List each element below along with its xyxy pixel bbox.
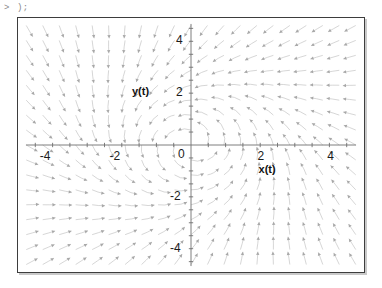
- field-arrow-head: [123, 139, 126, 143]
- direction-field-plot: [18, 18, 364, 272]
- field-arrow-head: [242, 147, 245, 150]
- field-arrow-head: [65, 150, 69, 153]
- field-arrow-head: [302, 237, 305, 241]
- field-arrow-head: [229, 195, 232, 199]
- field-arrow-head: [153, 34, 156, 38]
- field-arrow-head: [296, 122, 300, 125]
- field-arrow-head: [36, 189, 39, 192]
- field-arrow-head: [82, 165, 86, 168]
- field-arrow-head: [166, 228, 170, 231]
- command-prompt-line[interactable]: > );: [4, 1, 29, 14]
- field-arrow-head: [107, 124, 110, 128]
- field-arrow-head: [36, 203, 39, 206]
- field-arrow-head: [166, 179, 169, 182]
- field-arrow-head: [310, 70, 313, 73]
- field-arrow-head: [315, 164, 318, 168]
- field-arrow-head: [211, 96, 214, 99]
- field-arrow-head: [92, 65, 95, 68]
- plot-output-frame[interactable]: -4-202442-2-4y(t)x(t): [17, 17, 365, 273]
- field-arrow-head: [214, 151, 217, 155]
- field-arrow-head: [327, 110, 331, 113]
- field-arrow-head: [331, 180, 334, 184]
- field-arrow-head: [92, 109, 95, 113]
- field-arrow-head: [106, 110, 109, 113]
- field-arrow-head: [85, 204, 88, 207]
- field-arrow-head: [310, 96, 313, 99]
- field-arrow-head: [167, 62, 170, 66]
- field-arrow-head: [268, 133, 271, 137]
- field-arrow-head: [183, 47, 186, 51]
- field-arrow-head: [136, 79, 139, 83]
- field-arrow-head: [287, 192, 290, 195]
- field-arrow-head: [348, 209, 351, 213]
- field-arrow-head: [92, 35, 95, 38]
- field-arrow-head: [310, 83, 313, 86]
- field-arrow-head: [47, 92, 50, 96]
- field-arrow-head: [195, 97, 199, 100]
- field-arrow-head: [213, 108, 216, 111]
- field-arrow-head: [132, 243, 136, 246]
- field-arrow-head: [228, 148, 231, 151]
- field-arrow-head: [287, 177, 290, 181]
- field-arrow-head: [107, 35, 110, 38]
- field-arrow-head: [277, 70, 280, 73]
- field-arrow-head: [197, 121, 200, 124]
- field-arrow-head: [138, 35, 141, 38]
- field-arrow-head: [137, 49, 140, 52]
- field-arrow-head: [52, 203, 55, 206]
- field-arrow-head: [85, 191, 88, 194]
- prompt-command-text[interactable]: );: [17, 3, 29, 13]
- field-arrow-head: [76, 34, 79, 38]
- field-arrow-head: [69, 203, 72, 206]
- field-arrow-head: [148, 242, 152, 245]
- field-arrow-head: [241, 252, 244, 255]
- field-arrow-head: [343, 111, 346, 114]
- field-arrow-head: [261, 70, 264, 73]
- field-arrow-head: [107, 65, 110, 68]
- field-arrow-head: [245, 95, 248, 98]
- field-arrow-head: [258, 177, 261, 180]
- field-arrow-head: [327, 56, 331, 59]
- field-arrow-head: [316, 179, 319, 183]
- field-arrow-head: [241, 237, 244, 240]
- field-arrow-head: [167, 203, 171, 206]
- field-arrow-head: [287, 252, 290, 255]
- field-arrow-head: [35, 230, 39, 233]
- field-arrow-head: [294, 70, 297, 73]
- x-tick-label: 4: [327, 149, 334, 163]
- maple-worksheet: > ); -4-202442-2-4y(t)x(t): [0, 0, 382, 288]
- field-arrow-head: [244, 193, 247, 197]
- field-arrow-head: [257, 237, 260, 240]
- field-arrow-head: [246, 44, 250, 47]
- field-arrow-head: [244, 70, 248, 73]
- field-arrow-head: [327, 70, 330, 73]
- x-tick-label: 2: [258, 149, 265, 163]
- field-arrow-head: [228, 83, 231, 86]
- field-arrow-head: [135, 204, 138, 207]
- field-arrow-head: [326, 84, 329, 87]
- field-arrow-head: [117, 192, 120, 195]
- field-arrow-head: [287, 207, 290, 210]
- field-arrow-head: [345, 152, 349, 155]
- field-arrow-head: [278, 95, 281, 98]
- field-arrow-head: [184, 177, 187, 180]
- field-arrow-head: [134, 217, 138, 220]
- field-arrow-head: [302, 252, 305, 256]
- field-arrow-head: [293, 83, 296, 86]
- field-arrow-head: [123, 35, 126, 38]
- field-arrow-head: [294, 96, 297, 99]
- field-arrow-head: [272, 237, 275, 240]
- field-arrow-head: [69, 217, 72, 220]
- field-arrow-head: [273, 192, 276, 195]
- field-arrow-head: [107, 50, 110, 53]
- field-arrow-head: [299, 149, 302, 153]
- field-arrow-head: [102, 204, 105, 207]
- field-arrow-head: [30, 62, 33, 66]
- field-arrow-head: [134, 192, 137, 195]
- field-arrow-head: [106, 95, 109, 98]
- field-arrow-head: [283, 134, 286, 137]
- field-arrow-head: [313, 137, 317, 140]
- field-arrow-head: [212, 224, 215, 228]
- field-arrow-head: [68, 177, 72, 180]
- field-arrow-head: [36, 217, 39, 220]
